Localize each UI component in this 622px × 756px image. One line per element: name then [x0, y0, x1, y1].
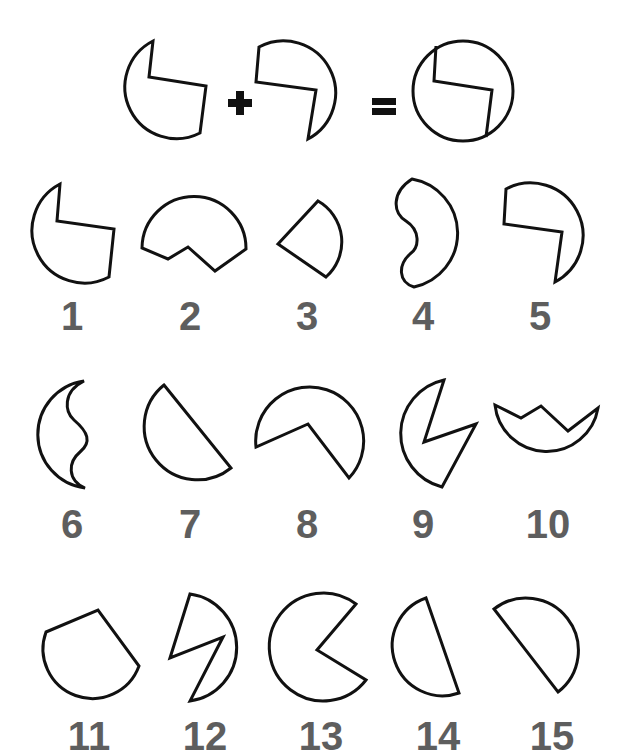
- option-9-label: 9: [383, 504, 463, 544]
- option-5-label: 5: [500, 296, 580, 336]
- option-4-label: 4: [383, 296, 463, 336]
- option-3-shape[interactable]: [278, 201, 342, 277]
- option-3-label: 3: [267, 296, 347, 336]
- option-2-shape[interactable]: [142, 197, 246, 271]
- puzzle-canvas: [0, 0, 622, 756]
- equation-right-piece: [256, 41, 336, 139]
- equation-result-circle: [413, 41, 513, 141]
- option-15-label: 15: [512, 716, 592, 756]
- option-13-label: 13: [281, 716, 361, 756]
- option-6-shape[interactable]: [38, 381, 87, 488]
- option-1-label: 1: [32, 296, 112, 336]
- option-6-label: 6: [32, 504, 112, 544]
- option-10-label: 10: [508, 504, 588, 544]
- option-12-shape[interactable]: [170, 594, 237, 701]
- option-8-shape[interactable]: [256, 387, 364, 478]
- option-9-shape[interactable]: [401, 380, 476, 487]
- equals-operator-icon: [372, 98, 396, 115]
- option-11-label: 11: [49, 716, 129, 756]
- option-8-label: 8: [267, 504, 347, 544]
- option-4-shape[interactable]: [396, 179, 457, 287]
- option-13-shape[interactable]: [269, 593, 366, 701]
- option-7-label: 7: [150, 504, 230, 544]
- puzzle-stage: 1 2 3 4 5 6 7 8 9 10 11 12 13 14 15: [0, 0, 622, 756]
- option-10-shape[interactable]: [495, 405, 598, 451]
- plus-operator-icon: [228, 91, 252, 115]
- equation-left-piece: [125, 41, 206, 139]
- option-12-label: 12: [165, 716, 245, 756]
- option-11-shape[interactable]: [43, 610, 139, 698]
- option-5-shape[interactable]: [504, 183, 583, 282]
- option-14-shape[interactable]: [392, 598, 459, 696]
- option-2-label: 2: [150, 296, 230, 336]
- option-1-shape[interactable]: [32, 184, 114, 283]
- option-15-shape[interactable]: [494, 598, 578, 692]
- option-7-shape[interactable]: [144, 385, 231, 480]
- option-14-label: 14: [398, 716, 478, 756]
